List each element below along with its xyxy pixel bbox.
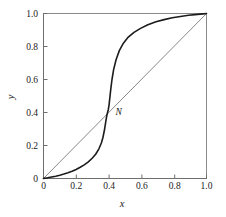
chart-figure: 0 0.2 0.4 0.6 0.8 1.0 0 0.2 0.4 0.6 0.8 …	[0, 0, 226, 217]
y-tick-label-4: 0.8	[26, 42, 38, 52]
x-tick-label-4: 0.8	[169, 181, 181, 191]
intersection-label-n: N	[115, 107, 123, 117]
plot-svg: 0 0.2 0.4 0.6 0.8 1.0 0 0.2 0.4 0.6 0.8 …	[0, 0, 226, 217]
x-tick-label-0: 0	[41, 181, 46, 191]
y-tick-label-0: 0	[33, 174, 38, 184]
y-tick-label-1: 0.2	[26, 141, 38, 151]
x-tick-label-5: 1.0	[201, 181, 213, 191]
y-tick-label-2: 0.4	[26, 108, 38, 118]
x-tick-label-3: 0.6	[136, 181, 148, 191]
y-axis-title: y	[5, 94, 16, 100]
x-tick-label-2: 0.4	[103, 181, 115, 191]
y-tick-label-3: 0.6	[26, 75, 38, 85]
x-axis-title: x	[119, 198, 125, 209]
x-tick-label-1: 0.2	[70, 181, 82, 191]
y-tick-label-5: 1.0	[26, 9, 38, 19]
